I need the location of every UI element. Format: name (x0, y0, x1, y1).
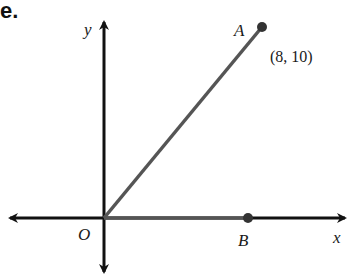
segment-OA (104, 27, 262, 218)
point-A-label: A (233, 21, 245, 40)
point-A-coords: (8, 10) (270, 48, 313, 66)
heading-fragment: e. (0, 0, 18, 23)
y-axis-label: y (82, 20, 92, 39)
coordinate-diagram: e. y x O A (8, 10) B (0, 0, 353, 277)
point-B (243, 213, 253, 223)
origin-label: O (78, 225, 90, 244)
point-A (257, 22, 267, 32)
x-axis-label: x (332, 228, 341, 247)
point-B-label: B (238, 231, 249, 250)
